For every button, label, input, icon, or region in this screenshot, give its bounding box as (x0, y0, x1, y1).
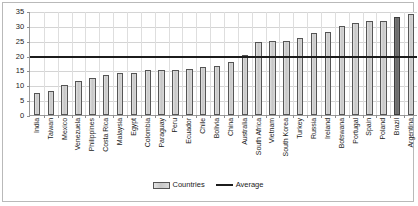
x-axis-label-slot: Australia (237, 117, 251, 175)
x-axis-label-slot: Brazil (389, 117, 403, 175)
bar-brazil (394, 17, 400, 115)
plot-inner (30, 12, 417, 115)
y-axis: 05101520253035 (3, 3, 27, 115)
x-axis-tick-label: Peru (171, 118, 178, 133)
x-axis-tick-label: Chile (199, 118, 206, 134)
category-separator (182, 12, 183, 115)
x-axis-tick-label: Taiwan (46, 118, 53, 140)
y-axis-tick-mark (27, 12, 30, 13)
category-separator (44, 12, 45, 115)
x-axis-label-slot: Vietnam (265, 117, 279, 175)
x-axis-label-slot: Russia (306, 117, 320, 175)
x-axis-tick-label: Bolivia (213, 118, 220, 138)
x-axis-label-slot: Poland (375, 117, 389, 175)
x-axis-label-slot: Peru (168, 117, 182, 175)
x-axis-tick-label: Costa Rica (102, 118, 109, 152)
category-separator (390, 12, 391, 115)
chart-legend: CountriesAverage (3, 178, 413, 192)
x-axis-tick-label: Argentina (407, 118, 414, 148)
line-swatch-icon (216, 184, 233, 186)
x-axis-tick-label: Turkey (296, 118, 303, 139)
x-axis-tick-label: Russia (310, 118, 317, 139)
y-axis-tick-label: 20 (4, 53, 24, 61)
legend-label: Countries (173, 181, 205, 189)
y-axis-tick-mark (27, 86, 30, 87)
x-axis-label-slot: South Africa (251, 117, 265, 175)
x-axis-label-slot: Bolivia (209, 117, 223, 175)
bar-china (228, 62, 234, 115)
y-axis-tick-label: 5 (4, 97, 24, 105)
category-separator (58, 12, 59, 115)
category-separator (376, 12, 377, 115)
x-axis-label-slot: Portugal (348, 117, 362, 175)
bar-south-africa (255, 42, 261, 115)
x-axis-label-slot: Chile (195, 117, 209, 175)
x-axis-label-slot: Ireland (320, 117, 334, 175)
y-axis-tick-mark (27, 27, 30, 28)
category-separator (252, 12, 253, 115)
category-separator (363, 12, 364, 115)
category-separator (279, 12, 280, 115)
bar-chile (200, 67, 206, 115)
bar-portugal (352, 23, 358, 115)
category-separator (238, 12, 239, 115)
category-separator (127, 12, 128, 115)
x-axis-label-slot: Egypt (126, 117, 140, 175)
x-axis-tick-label: South Africa (254, 118, 261, 155)
average-reference-line (30, 56, 417, 58)
bar-australia (242, 55, 248, 115)
bar-spain (366, 21, 372, 115)
x-axis-tick-label: Philippines (88, 118, 95, 151)
bar-turkey (297, 38, 303, 115)
category-separator (141, 12, 142, 115)
x-axis-tick-label: Spain (365, 118, 372, 136)
x-axis-tick-label: Australia (240, 118, 247, 145)
x-axis-tick-label: Colombia (143, 118, 150, 147)
category-separator (293, 12, 294, 115)
bar-colombia (145, 70, 151, 115)
bar-ecuador (186, 69, 192, 115)
y-axis-tick-mark (27, 42, 30, 43)
bar-mexico (61, 85, 67, 115)
x-axis-tick-label: India (32, 118, 39, 133)
bar-venezuela (75, 81, 81, 115)
bar-south-korea (283, 41, 289, 115)
y-axis-tick-label: 15 (4, 67, 24, 75)
bar-peru (172, 70, 178, 115)
x-axis-tick-label: Egypt (129, 118, 136, 136)
x-axis-label-slot: Mexico (57, 117, 71, 175)
x-axis-label-slot: China (223, 117, 237, 175)
x-axis-tick-label: China (226, 118, 233, 136)
bar-costa-rica (103, 75, 109, 115)
bar-malaysia (117, 73, 123, 115)
legend-label: Average (236, 181, 264, 189)
plot-area (29, 12, 417, 116)
x-axis: IndiaTaiwanMexicoVenezuelaPhilippinesCos… (29, 117, 417, 175)
x-axis-label-slot: Malaysia (112, 117, 126, 175)
x-axis-label-slot: India (29, 117, 43, 175)
bar-bolivia (214, 66, 220, 115)
bar-philippines (89, 78, 95, 115)
y-axis-tick-label: 0 (4, 112, 24, 120)
x-axis-tick-label: Mexico (60, 118, 67, 140)
category-separator (85, 12, 86, 115)
legend-entry: Countries (153, 181, 205, 189)
x-axis-label-slot: Botswana (334, 117, 348, 175)
y-axis-tick-mark (27, 71, 30, 72)
bar-egypt (131, 73, 137, 115)
category-separator (224, 12, 225, 115)
chart-frame: 05101520253035 IndiaTaiwanMexicoVenezuel… (2, 2, 414, 202)
x-axis-tick-label: Venezuela (74, 118, 81, 150)
x-axis-tick-label: Vietnam (268, 118, 275, 143)
bar-india (34, 93, 40, 115)
bar-swatch-icon (153, 182, 170, 189)
x-axis-tick-label: South Korea (282, 118, 289, 156)
category-separator (404, 12, 405, 115)
legend-entry: Average (216, 181, 264, 189)
bar-paraguay (158, 70, 164, 115)
x-axis-label-slot: Colombia (140, 117, 154, 175)
y-axis-tick-label: 10 (4, 82, 24, 90)
category-separator (113, 12, 114, 115)
x-axis-label-slot: Costa Rica (98, 117, 112, 175)
x-axis-tick-label: Malaysia (116, 118, 123, 145)
